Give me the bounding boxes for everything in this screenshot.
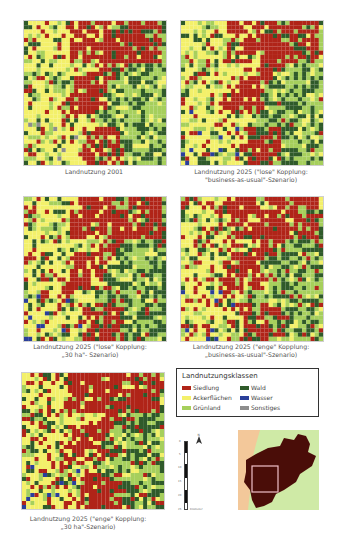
map-caption: Landnutzung 2025 ("lose" Kopplung: "busi… — [172, 168, 330, 184]
legend-label: Grünland — [193, 404, 221, 411]
caption-line: Landnutzung 2025 ("enge" Kopplung: — [8, 515, 168, 523]
legend-title: Landnutzungsklassen — [182, 372, 258, 380]
caption-line: „30 ha"-Szenario) — [8, 523, 168, 531]
caption-line: Landnutzung 2001 — [23, 168, 165, 176]
legend-label: Ackerflächen — [193, 394, 232, 401]
legend-item-siedlung: Siedlung — [182, 384, 219, 391]
map-raster — [22, 373, 164, 509]
legend-item-ackerflaechen: Ackerflächen — [182, 394, 232, 401]
map-raster — [181, 21, 323, 165]
legend-swatch — [240, 386, 249, 390]
caption-line: Landnutzung 2025 ("lose" Kopplung: — [172, 168, 330, 176]
legend-swatch — [240, 406, 249, 410]
legend-item-gruenland: Grünland — [182, 404, 221, 411]
caption-line: Landnutzung 2025 ("lose" Kopplung: — [10, 343, 170, 351]
caption-line: Landnutzung 2025 ("enge" Kopplung: — [172, 343, 330, 351]
locator-inset-map — [238, 430, 319, 510]
legend-swatch — [182, 386, 191, 390]
map-caption: Landnutzung 2025 ("enge" Kopplung: „30 h… — [8, 515, 168, 531]
map-raster — [24, 21, 166, 165]
legend-label: Sonstiges — [251, 404, 280, 411]
legend-item-wasser: Wasser — [240, 394, 273, 401]
scale-tick: 10 — [178, 466, 181, 469]
map-caption: Landnutzung 2001 — [23, 168, 165, 176]
legend-item-wald: Wald — [240, 384, 266, 391]
scale-bar — [184, 441, 188, 510]
land-use-map-2025-enge-30ha — [21, 372, 165, 510]
legend-swatch — [182, 396, 191, 400]
svg-text:N: N — [198, 433, 200, 437]
map-caption: Landnutzung 2025 ("lose" Kopplung: „30 h… — [10, 343, 170, 359]
legend-swatch — [182, 406, 191, 410]
scale-tick: 25 — [178, 508, 181, 511]
land-use-map-2025-enge-bau — [180, 196, 324, 342]
legend-label: Siedlung — [193, 384, 219, 391]
caption-line: "business-as-usual"-Szenario) — [172, 176, 330, 184]
caption-line: „business-as-usual"-Szenario) — [172, 351, 330, 359]
map-caption: Landnutzung 2025 ("enge" Kopplung: „busi… — [172, 343, 330, 359]
legend-item-sonstiges: Sonstiges — [240, 404, 280, 411]
caption-line: „30 ha"- Szenario) — [10, 351, 170, 359]
north-arrow-icon: N — [195, 433, 203, 447]
legend-swatch — [240, 396, 249, 400]
legend-label: Wasser — [251, 394, 273, 401]
land-use-map-2025-lose-bau — [180, 20, 324, 166]
land-use-map-2001 — [23, 20, 167, 166]
map-raster — [181, 197, 323, 341]
land-use-map-2025-lose-30ha — [23, 196, 167, 342]
map-raster — [24, 197, 166, 341]
scale-tick: 0 — [179, 440, 181, 443]
legend-box: Landnutzungsklassen Siedlung Wald Ackerf… — [176, 368, 319, 417]
scale-unit: Kilometer — [190, 508, 203, 511]
scale-tick: 5 — [179, 453, 181, 456]
legend-label: Wald — [251, 384, 266, 391]
scale-tick: 15 — [178, 480, 181, 483]
scale-tick: 20 — [178, 494, 181, 497]
